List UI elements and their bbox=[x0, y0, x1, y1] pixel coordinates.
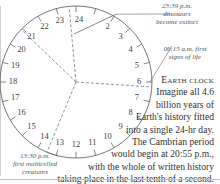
hour-tick bbox=[3, 62, 9, 64]
earth-clock-figure: 24234567891011121314151617181920212223 2… bbox=[0, 0, 220, 184]
caption-line: The Cambrian period bbox=[54, 136, 214, 148]
caption-line: would begin at 20:55 p.m., bbox=[54, 148, 214, 160]
hour-label: 23 bbox=[55, 15, 64, 25]
bottom-border bbox=[0, 179, 220, 180]
caption-line: Imagine all 4.6 bbox=[54, 86, 214, 98]
hour-label: 5 bbox=[135, 60, 139, 70]
annotation-dinosaurs: 23:39 p.m. dinosaurs become extinct bbox=[142, 2, 212, 26]
caption: Earth clock Imagine all 4.6 billion year… bbox=[54, 74, 214, 184]
hour-label: 2 bbox=[105, 21, 109, 31]
hour-tick bbox=[3, 100, 9, 102]
hour-label: 22 bbox=[40, 21, 49, 31]
annotation-text: dinosaurs bbox=[142, 10, 212, 18]
hour-label: 4 bbox=[128, 44, 133, 54]
hour-tick bbox=[22, 131, 26, 135]
hour-label: 17 bbox=[11, 92, 20, 102]
caption-line: with the whole of written history bbox=[54, 161, 214, 173]
hour-label: 16 bbox=[17, 107, 26, 117]
caption-line: billion years of bbox=[54, 99, 214, 111]
hour-tick bbox=[38, 143, 41, 148]
hour-tick bbox=[56, 9, 58, 15]
hour-label: 24 bbox=[75, 14, 84, 24]
hour-label: 20 bbox=[17, 44, 26, 54]
caption-title: Earth clock bbox=[54, 74, 214, 86]
annotation-text: become extinct bbox=[142, 18, 212, 26]
hour-label: 15 bbox=[27, 121, 36, 131]
caption-line: into a single 24-hr day. bbox=[54, 124, 214, 136]
hour-label: 19 bbox=[11, 60, 20, 70]
hour-tick bbox=[10, 44, 15, 47]
annotation-time: 23:39 p.m. bbox=[142, 2, 212, 10]
hour-tick bbox=[22, 28, 26, 32]
hour-tick bbox=[144, 62, 150, 64]
hour-tick bbox=[125, 28, 129, 32]
annotation-text: signs of life bbox=[150, 53, 220, 61]
hour-tick bbox=[137, 44, 142, 47]
hour-tick bbox=[94, 9, 96, 15]
hour-label: 3 bbox=[118, 31, 122, 41]
hour-label: 14 bbox=[40, 131, 49, 141]
caption-line: Earth's history fitted bbox=[54, 111, 214, 123]
annotation-time: 06:15 a.m. first bbox=[150, 45, 220, 53]
annotation-first-life: 06:15 a.m. first signs of life bbox=[150, 45, 220, 61]
hour-tick bbox=[111, 16, 114, 21]
hour-tick bbox=[10, 117, 15, 120]
hour-label: 18 bbox=[9, 76, 18, 86]
